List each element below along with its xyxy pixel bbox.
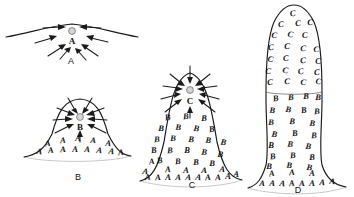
zone-letter-b: B — [200, 113, 207, 123]
panel-b-label: B — [75, 172, 81, 182]
zone-letter-a: A — [308, 178, 315, 188]
panel-c-core-letter: C — [187, 96, 194, 106]
zone-letter-b: B — [169, 133, 176, 143]
zone-letter-b: B — [313, 106, 321, 116]
zone-letter-b: B — [268, 105, 276, 115]
zone-letter-b: B — [288, 116, 295, 126]
zone-letter-b: B — [308, 118, 316, 129]
panel-a-core-dot — [69, 28, 76, 35]
zone-letter-a: A — [268, 178, 276, 188]
zone-letter-b: B — [314, 92, 321, 102]
panel-d-outline — [248, 5, 346, 188]
zone-letter-a: A — [203, 172, 211, 183]
zone-letter-c: C — [271, 30, 278, 40]
zone-letter-b: B — [310, 130, 318, 140]
zone-letter-c: C — [307, 17, 313, 27]
panel-c-label: C — [189, 180, 196, 190]
zone-letter-a: A — [308, 168, 315, 178]
zone-letter-c: C — [268, 42, 275, 52]
panel-d: CCCCCCCCCCCCCCCCCCCCCCC BBBBBBBBBBBBBBBB… — [248, 5, 346, 195]
zone-letter-a: A — [214, 172, 222, 182]
zone-letter-c: C — [300, 77, 307, 87]
zone-letter-b: B — [157, 123, 164, 133]
zone-letter-a: A — [164, 172, 171, 182]
zone-letter-a: A — [116, 147, 124, 158]
zone-letter-a: A — [147, 156, 155, 167]
zone-letter-a: A — [174, 172, 181, 182]
zone-letter-b: B — [302, 91, 309, 101]
zone-letter-b: B — [208, 158, 215, 168]
zone-letter-b: B — [187, 134, 194, 144]
zone-letter-a: A — [328, 176, 336, 187]
scientific-figure: A A — [0, 0, 354, 197]
zone-letter-b: B — [183, 145, 190, 155]
zone-letter-a: A — [59, 144, 67, 154]
panel-b-core-dot — [77, 114, 84, 121]
panel-c: C BBBBBBBBBBBBBBBBBBBBB AAAAAAAAAAAAAAAA — [140, 66, 242, 190]
zone-letter-a: A — [89, 135, 96, 145]
zone-letter-c: C — [284, 76, 290, 86]
zone-letter-b: B — [267, 140, 274, 150]
zone-letter-c: C — [300, 43, 306, 53]
zone-letter-a: A — [95, 145, 103, 156]
zone-letter-a: A — [83, 144, 90, 154]
zone-letter-b: B — [204, 135, 212, 146]
zone-letter-a: A — [232, 169, 240, 179]
zone-letter-b: B — [153, 134, 161, 144]
panel-a: A A — [6, 24, 138, 66]
zone-letter-c: C — [315, 56, 321, 66]
zone-letter-a: A — [258, 178, 265, 188]
zone-letter-b: B — [304, 141, 312, 152]
zone-letter-b: B — [288, 150, 296, 161]
zone-letter-b: B — [174, 122, 182, 132]
zone-letter-b: B — [192, 157, 199, 167]
zone-letter-a: A — [318, 177, 325, 187]
zone-letter-b: B — [200, 147, 208, 157]
panel-a-label: A — [68, 56, 74, 66]
zone-letter-c: C — [265, 66, 272, 76]
zone-letter-a: A — [287, 167, 295, 178]
zone-letter-b: B — [308, 152, 315, 162]
zone-letter-b: B — [219, 137, 227, 148]
zone-letter-c: C — [300, 55, 307, 65]
panel-d-label: D — [295, 185, 302, 195]
panel-a-core-letter: A — [69, 36, 76, 46]
panel-c-core-dot — [187, 87, 194, 94]
zone-letter-a: A — [154, 172, 162, 182]
zone-letter-c: C — [295, 18, 301, 28]
zone-letter-c: C — [284, 41, 290, 51]
zone-letter-b: B — [173, 156, 181, 167]
zone-letter-b: B — [290, 128, 298, 139]
zone-letter-c: C — [267, 77, 273, 87]
zone-letter-b: B — [286, 92, 294, 103]
panel-b: B AAAAAAAAAAAAA B — [24, 98, 131, 182]
zone-letter-b: B — [267, 117, 274, 127]
zone-letter-a: A — [224, 171, 231, 181]
zone-letter-a: A — [74, 133, 81, 143]
zone-letter-b: B — [216, 149, 224, 160]
zone-letter-b: B — [286, 139, 294, 149]
zone-letter-a: A — [71, 144, 78, 154]
zone-letter-b: B — [149, 145, 157, 156]
zone-letter-b: B — [166, 145, 174, 155]
zone-letter-a: A — [143, 172, 151, 183]
zone-letter-b: B — [181, 111, 189, 122]
